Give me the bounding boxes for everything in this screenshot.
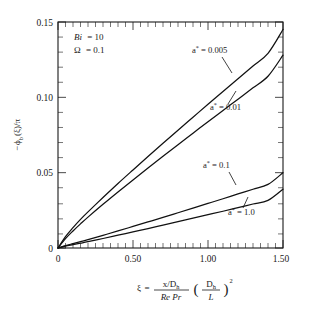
- series-label-10: a*= 1.0: [228, 197, 255, 217]
- series-label-text-0005: a*= 0.005: [192, 44, 227, 55]
- x-label-paren-open: (: [194, 281, 199, 298]
- series-label-01: a*= 0.1: [203, 159, 236, 185]
- x-label-paren-denominator: L: [207, 292, 213, 302]
- y-axis-minor-ticks: [58, 37, 63, 234]
- y-tick-label-2: 0.10: [36, 93, 53, 103]
- y-label-minus: −: [12, 146, 22, 151]
- x-label-equals: =: [144, 283, 149, 293]
- x-axis-minor-ticks: [66, 243, 276, 248]
- series-star-001: *: [214, 101, 217, 108]
- curve-a-001: [58, 55, 283, 248]
- x-tick-label-0: 0: [56, 254, 61, 264]
- y-label-arg: (ξ): [12, 126, 22, 136]
- series-label-text-10: a*= 1.0: [228, 206, 255, 217]
- leader-line-0005: [222, 57, 232, 73]
- y-tick-labels: 0 0.05 0.10 0.15: [36, 18, 53, 254]
- x-label-num-sub: h: [176, 283, 180, 290]
- chart-svg: 0 0.05 0.10 0.15 0 0.50 1.00 1.50 Bi = 1…: [0, 0, 312, 313]
- annotation-biot-value: = 10: [87, 32, 104, 42]
- x-label-paren-close: ): [224, 281, 229, 298]
- x-label-paren-numerator: Dh: [206, 279, 217, 290]
- x-tick-label-2: 1.00: [200, 254, 217, 264]
- x-label-num-text: x/D: [163, 279, 177, 289]
- x-tick-labels: 0 0.50 1.00 1.50: [56, 254, 290, 264]
- series-value-001: = 0.01: [219, 102, 241, 112]
- y-axis-label: −ϕb(ξ)/π: [12, 118, 24, 151]
- annotation-omega-symbol: Ω: [74, 45, 81, 55]
- series-star-0005: *: [196, 44, 199, 51]
- series-label-text-01: a*= 0.1: [203, 159, 230, 170]
- y-label-div: /π: [12, 118, 22, 126]
- x-axis-label: ξ = x/Dh Re Pr ( Dh L ) 2: [137, 277, 233, 302]
- series-value-01: = 0.1: [212, 160, 230, 170]
- x-label-denominator: Re Pr: [160, 292, 182, 302]
- series-label-001: a*= 0.01: [210, 91, 241, 112]
- series-value-0005: = 0.005: [201, 45, 227, 55]
- x-label-paren-num-sub: h: [213, 283, 217, 290]
- x-tick-label-1: 0.50: [125, 254, 142, 264]
- x-label-exponent: 2: [229, 277, 232, 284]
- y-tick-label-3: 0.15: [36, 18, 53, 28]
- series-value-10: = 1.0: [237, 207, 255, 217]
- y-tick-label-0: 0: [48, 244, 53, 254]
- series-label-text-001: a*= 0.01: [210, 101, 241, 112]
- figure-container: 0 0.05 0.10 0.15 0 0.50 1.00 1.50 Bi = 1…: [0, 0, 312, 313]
- series-star-10: *: [232, 206, 235, 213]
- annotation-biot-symbol: Bi: [74, 32, 82, 42]
- y-axis-major-ticks: [58, 22, 66, 248]
- x-tick-label-3: 1.50: [273, 254, 290, 264]
- plot-annotations: Bi = 10 Ω = 0.1: [74, 32, 105, 55]
- y-tick-label-1: 0.05: [36, 168, 53, 178]
- y-label-sub: b: [17, 137, 24, 140]
- annotation-omega: Ω = 0.1: [74, 45, 105, 55]
- x-axis-top-ticks: [58, 22, 283, 30]
- series-star-01: *: [207, 159, 210, 166]
- series-label-0005: a*= 0.005: [192, 44, 232, 73]
- x-label-xi: ξ: [137, 283, 141, 293]
- y-axis-label-text: −ϕb(ξ)/π: [12, 118, 24, 151]
- annotation-biot: Bi = 10: [74, 32, 104, 42]
- leader-line-01: [229, 172, 236, 185]
- x-label-numerator: x/Dh: [163, 279, 181, 290]
- annotation-omega-value: = 0.1: [86, 45, 105, 55]
